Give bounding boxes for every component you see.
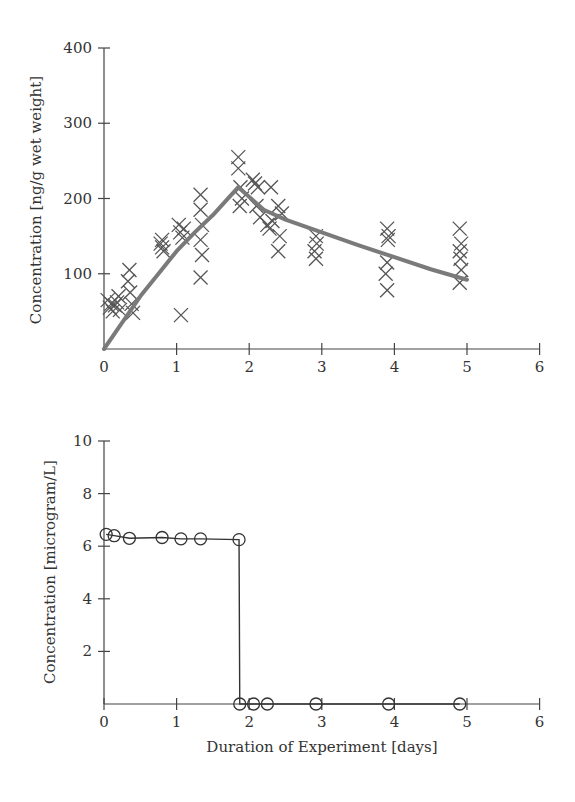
x-marker — [264, 180, 278, 194]
top-scatter-points — [101, 150, 469, 322]
bottom-chart: 246810 0123456 Concentration [microgram/… — [41, 432, 544, 756]
x-marker — [174, 308, 188, 322]
x-marker — [177, 222, 191, 236]
x-marker — [273, 229, 287, 243]
x-tick-label: 4 — [390, 713, 400, 731]
bottom-y-axis-title: Concentration [microgram/L] — [41, 460, 59, 684]
x-marker — [379, 267, 393, 281]
x-marker — [309, 252, 323, 266]
x-tick-label: 0 — [99, 358, 109, 376]
y-tick-label: 400 — [63, 39, 92, 57]
x-marker — [260, 218, 274, 232]
bottom-circle-markers — [100, 528, 466, 710]
y-tick-label: 2 — [82, 642, 92, 660]
chart-canvas: 100200300400 0123456 Concentration [ng/g… — [0, 0, 575, 802]
x-tick-label: 3 — [317, 713, 327, 731]
y-tick-label: 10 — [73, 432, 92, 450]
x-tick-label: 0 — [99, 713, 109, 731]
x-tick-label: 1 — [172, 713, 182, 731]
x-marker — [231, 161, 245, 175]
x-marker — [195, 248, 209, 262]
x-tick-label: 3 — [317, 358, 327, 376]
x-marker — [231, 150, 245, 164]
x-marker — [251, 180, 265, 194]
x-tick-label: 2 — [244, 713, 254, 731]
top-fit-line — [104, 187, 467, 349]
x-tick-label: 5 — [462, 358, 472, 376]
y-tick-label: 300 — [63, 114, 92, 132]
x-marker — [194, 233, 208, 247]
x-tick-label: 2 — [244, 358, 254, 376]
x-marker — [194, 188, 208, 202]
y-tick-label: 6 — [82, 537, 92, 555]
x-marker — [246, 173, 260, 187]
x-marker — [380, 283, 394, 297]
x-tick-label: 6 — [535, 358, 545, 376]
x-marker — [453, 222, 467, 236]
x-marker — [194, 271, 208, 285]
top-y-ticks: 100200300400 — [63, 39, 110, 283]
top-chart: 100200300400 0123456 Concentration [ng/g… — [27, 39, 544, 376]
x-marker — [194, 203, 208, 217]
y-tick-label: 100 — [63, 265, 92, 283]
y-tick-label: 4 — [82, 590, 92, 608]
x-tick-label: 4 — [390, 358, 400, 376]
x-marker — [453, 244, 467, 258]
bottom-x-axis-title: Duration of Experiment [days] — [206, 738, 437, 756]
top-x-ticks: 0123456 — [99, 343, 544, 376]
x-marker — [271, 244, 285, 258]
x-tick-label: 1 — [172, 358, 182, 376]
y-tick-label: 8 — [82, 485, 92, 503]
x-tick-label: 5 — [462, 713, 472, 731]
figure: 100200300400 0123456 Concentration [ng/g… — [0, 0, 575, 802]
x-tick-label: 6 — [535, 713, 545, 731]
bottom-step-line — [106, 534, 460, 704]
x-marker — [271, 199, 285, 213]
y-tick-label: 200 — [63, 190, 92, 208]
top-y-axis-title: Concentration [ng/g wet weight] — [27, 76, 45, 324]
